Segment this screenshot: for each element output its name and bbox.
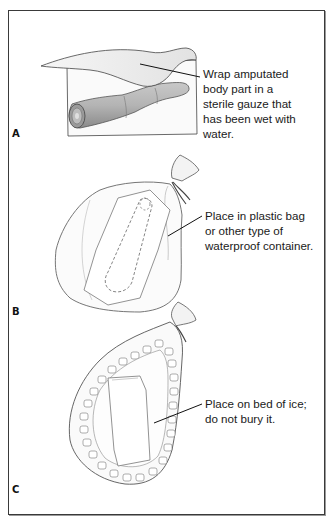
panel-c-illustration: [69, 302, 202, 484]
caption-panel-b: Place in plastic bag or other type of wa…: [205, 208, 313, 253]
panel-label-a: A: [12, 128, 20, 139]
caption-panel-c: Place on bed of ice; do not bury it.: [205, 396, 307, 426]
panel-label-c: C: [12, 484, 19, 495]
panel-a-illustration: [41, 48, 200, 136]
panel-b-illustration: [55, 155, 202, 312]
panel-label-b: B: [12, 306, 20, 317]
caption-panel-a: Wrap amputated body part in a sterile ga…: [203, 66, 296, 141]
